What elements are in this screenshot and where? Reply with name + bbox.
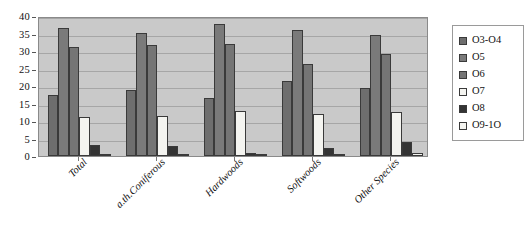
- bar: [79, 117, 90, 156]
- y-axis-tick-mark: [32, 122, 36, 123]
- bar: [90, 145, 101, 156]
- bar: [402, 142, 413, 156]
- bar: [136, 33, 147, 156]
- bar: [235, 111, 246, 157]
- legend-item[interactable]: O6: [459, 66, 518, 83]
- bar: [58, 28, 69, 156]
- y-axis-tick-label: 10: [19, 117, 30, 128]
- y-axis-tick-label: 20: [19, 82, 30, 93]
- legend-item-label: O3-O4: [472, 35, 501, 46]
- y-axis-tick-mark: [32, 87, 36, 88]
- bar-group: [360, 18, 423, 156]
- bar: [126, 90, 137, 156]
- bar: [370, 35, 381, 156]
- y-axis-tick-label: 35: [19, 29, 30, 40]
- legend-swatch-icon: [459, 71, 467, 79]
- bar: [334, 154, 345, 156]
- legend-swatch-icon: [459, 37, 467, 45]
- bar: [381, 54, 392, 156]
- legend-swatch-icon: [459, 105, 467, 113]
- y-axis-tick-label: 25: [19, 64, 30, 75]
- y-axis-tick-mark: [32, 52, 36, 53]
- x-axis-category-label: Total: [67, 157, 89, 179]
- bar-chart-figure: 0510152025303540 Totala.th.ConiferousHar…: [0, 0, 532, 244]
- bar: [246, 153, 257, 157]
- y-axis-tick-label: 40: [19, 12, 30, 23]
- y-axis: 0510152025303540: [0, 17, 36, 157]
- y-axis-tick-label: 30: [19, 47, 30, 58]
- x-axis: Totala.th.ConiferousHardwoodsSoftwoodsOt…: [0, 157, 532, 244]
- bar: [100, 154, 111, 156]
- legend-item[interactable]: O9-1O: [459, 117, 518, 134]
- y-axis-tick-label: 15: [19, 99, 30, 110]
- legend-item-label: O5: [472, 52, 485, 63]
- bar: [69, 47, 80, 156]
- bars-layer: [39, 18, 427, 156]
- bar: [157, 116, 168, 156]
- legend-item-label: O7: [472, 86, 485, 97]
- legend-item[interactable]: O7: [459, 83, 518, 100]
- bar: [204, 98, 215, 156]
- legend-item[interactable]: O3-O4: [459, 32, 518, 49]
- bar: [168, 146, 179, 156]
- bar: [360, 88, 371, 156]
- x-axis-category-label: Other Species: [353, 157, 402, 206]
- bar-group: [282, 18, 345, 156]
- y-axis-tick-mark: [32, 140, 36, 141]
- y-axis-tick-mark: [32, 70, 36, 71]
- bar-group: [126, 18, 189, 156]
- y-axis-tick-label: 5: [25, 134, 30, 145]
- bar: [391, 112, 402, 156]
- y-axis-tick-mark: [32, 17, 36, 18]
- bar: [147, 45, 158, 156]
- bar-group: [48, 18, 111, 156]
- bar: [48, 95, 59, 156]
- legend-item-label: O6: [472, 69, 485, 80]
- bar: [303, 64, 314, 156]
- legend-swatch-icon: [459, 122, 467, 130]
- y-axis-tick-mark: [32, 35, 36, 36]
- bar: [256, 154, 267, 156]
- plot-area: [38, 17, 428, 157]
- legend-item-label: O9-1O: [472, 120, 501, 131]
- bar: [178, 154, 189, 156]
- bar: [214, 24, 225, 156]
- legend-item-label: O8: [472, 103, 485, 114]
- bar: [324, 148, 335, 156]
- bar: [225, 44, 236, 156]
- bar: [313, 114, 324, 156]
- y-axis-tick-mark: [32, 105, 36, 106]
- legend-item[interactable]: O5: [459, 49, 518, 66]
- legend-swatch-icon: [459, 88, 467, 96]
- x-axis-category-label: a.th.Coniferous: [114, 157, 167, 210]
- bar-group: [204, 18, 267, 156]
- bar: [292, 30, 303, 156]
- legend-swatch-icon: [459, 54, 467, 62]
- legend-item[interactable]: O8: [459, 100, 518, 117]
- bar: [412, 153, 423, 157]
- bar: [282, 81, 293, 156]
- x-axis-category-label: Hardwoods: [204, 157, 246, 199]
- x-axis-category-label: Softwoods: [285, 157, 323, 195]
- chart-legend: O3-O4O5O6O7O8O9-1O: [452, 25, 524, 141]
